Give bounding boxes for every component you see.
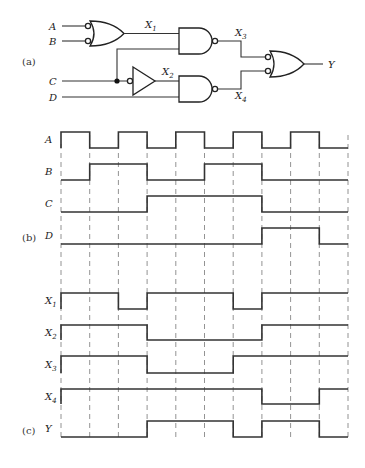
waveform-a [61,132,348,148]
node-label-x3: X3 [234,27,247,41]
inverter-gate [127,67,155,95]
inversion-bubble-icon [212,38,217,43]
inversion-bubble-icon [85,38,90,43]
signal-label-x1: X1 [44,295,57,309]
input-label-c: C [49,76,57,87]
wire-x4 [218,71,265,89]
waveform-b [61,164,348,180]
signal-label-y: Y [45,423,53,434]
logic-diagram: (a) A B C D X1 X2 [0,0,365,468]
input-label-a: A [48,21,56,32]
signal-label-x2: X2 [44,327,57,341]
inversion-bubble-icon [265,54,270,59]
signal-label-x3: X3 [44,359,57,373]
node-label-x1: X1 [144,19,157,33]
inversion-bubble-icon [127,78,132,83]
signal-label-a: A [44,134,52,145]
signal-label-c: C [45,198,53,209]
junction-dot-icon [114,78,119,83]
nand-gate-2 [179,76,218,102]
part-label-b: (b) [22,232,36,243]
part-label-a: (a) [22,56,36,67]
input-label-d: D [48,92,57,103]
or-gate-2 [265,51,304,77]
node-label-x2: X2 [161,66,174,80]
waveform-labels: ABCDX1X2X3X4Y [44,134,57,434]
inversion-bubble-icon [85,23,90,28]
input-label-b: B [48,36,56,47]
output-label-y: Y [328,59,336,70]
signal-label-b: B [44,166,52,177]
signal-label-x4: X4 [44,391,57,405]
or-gate-1 [85,21,124,46]
part-label-c: (c) [22,425,36,436]
signal-label-d: D [44,230,53,241]
inversion-bubble-icon [212,86,217,91]
wire-x3 [218,41,265,57]
node-label-x4: X4 [234,90,247,104]
inversion-bubble-icon [265,68,270,73]
circuit-schematic: (a) A B C D X1 X2 [22,19,336,104]
nand-gate-1 [179,28,218,54]
timing-diagram: (b) (c) ABCDX1X2X3X4Y [22,132,348,437]
